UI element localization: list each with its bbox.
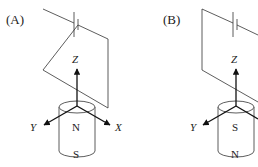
panel-a: (A) Z Y X N S	[6, 9, 123, 160]
panel-a-label: (A)	[6, 12, 24, 27]
z-axis-label: Z	[231, 53, 238, 65]
magnet-top-pole: N	[72, 121, 80, 133]
magnet-bottom-pole: N	[231, 148, 239, 160]
diagram-canvas: (A) Z Y X N S (B)	[0, 0, 258, 167]
y-axis-label: Y	[30, 121, 38, 133]
magnet-top-pole: S	[232, 121, 238, 133]
y-axis-label: Y	[190, 121, 198, 133]
panel-b: (B) Z Y S N	[163, 9, 258, 160]
z-axis-label: Z	[72, 53, 79, 65]
magnet-bottom-pole: S	[73, 148, 79, 160]
panel-b-label: (B)	[163, 12, 180, 27]
x-axis-label: X	[114, 121, 123, 133]
circuit-loop	[202, 9, 258, 102]
